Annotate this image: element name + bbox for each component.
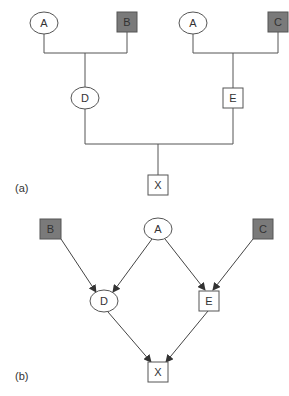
node-label: E bbox=[229, 92, 236, 104]
node-a-b: A bbox=[144, 218, 172, 240]
node-label: A bbox=[40, 17, 48, 29]
caption-a: (a) bbox=[15, 182, 28, 194]
node-e: E bbox=[223, 88, 243, 108]
node-label: C bbox=[274, 16, 282, 28]
node-d-b: D bbox=[90, 290, 118, 312]
node-a2: A bbox=[179, 12, 207, 34]
node-label: D bbox=[100, 295, 108, 307]
arrow-b-to-d bbox=[61, 239, 96, 292]
node-c-b: C bbox=[253, 219, 273, 239]
node-label: E bbox=[205, 295, 212, 307]
edge-a-c-to-e bbox=[193, 32, 278, 53]
node-label: C bbox=[259, 223, 267, 235]
node-label: A bbox=[189, 17, 197, 29]
node-label: X bbox=[154, 366, 162, 378]
arrow-a-to-e bbox=[165, 239, 205, 290]
node-label: B bbox=[47, 223, 54, 235]
edge-a-b-to-d bbox=[44, 32, 127, 53]
arrow-c-to-e bbox=[213, 239, 253, 290]
node-label: B bbox=[123, 16, 130, 28]
arrow-a-to-d bbox=[113, 239, 152, 292]
diagram-canvas: A B A C D E X (a) B A bbox=[0, 0, 289, 396]
node-c: C bbox=[268, 12, 288, 32]
node-b-b: B bbox=[40, 219, 61, 239]
node-label: A bbox=[154, 223, 162, 235]
arrow-e-to-x bbox=[166, 311, 208, 362]
node-d: D bbox=[71, 87, 99, 109]
node-x-b: X bbox=[148, 362, 168, 382]
caption-b: (b) bbox=[15, 370, 28, 382]
node-x: X bbox=[148, 175, 168, 195]
node-a1: A bbox=[30, 12, 58, 34]
node-label: X bbox=[154, 179, 162, 191]
node-e-b: E bbox=[199, 291, 219, 311]
node-label: D bbox=[81, 92, 89, 104]
edge-d-e-to-x bbox=[85, 108, 233, 144]
arrow-d-to-x bbox=[108, 312, 151, 362]
node-b: B bbox=[117, 12, 137, 32]
